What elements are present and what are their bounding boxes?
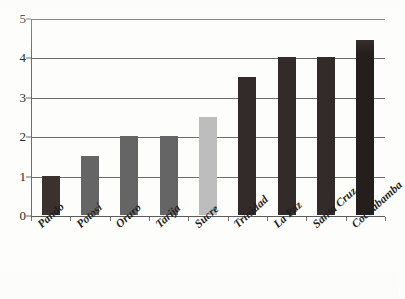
- y-axis: 012345: [0, 19, 26, 216]
- bars: [31, 19, 385, 216]
- bar-la-paz: [278, 57, 296, 215]
- bar-cochabamba: [356, 40, 374, 215]
- bar-sucre: [199, 117, 217, 216]
- bar-trinidad: [238, 77, 256, 215]
- x-tick-mark-9: [385, 217, 386, 221]
- plot-area: [31, 19, 385, 216]
- x-axis-labels: PandoPotosíOruroTarijaSucreTrinidadLa Pa…: [31, 221, 385, 299]
- bar-santa-cruz: [317, 57, 335, 215]
